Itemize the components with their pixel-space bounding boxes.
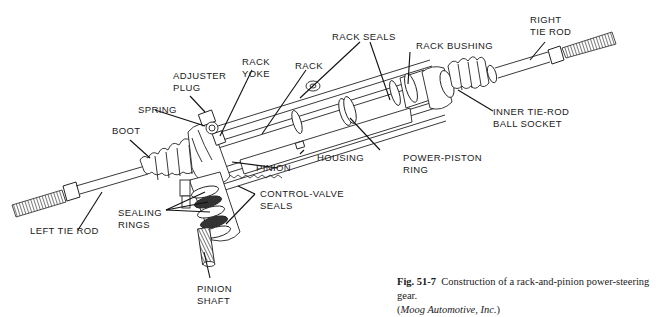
label-power-piston-ring: POWER-PISTON RING — [403, 152, 482, 175]
label-boot: BOOT — [112, 125, 141, 137]
label-inner-tie-rod-ball-socket: INNER TIE-ROD BALL SOCKET — [493, 106, 569, 129]
label-control-valve-seals: CONTROL-VALVE SEALS — [260, 188, 344, 211]
label-right-tie-rod: RIGHT TIE ROD — [530, 14, 571, 37]
right-tie-rod — [495, 32, 616, 78]
label-housing: HOUSING — [317, 152, 364, 164]
figure-number: Fig. 51-7 — [397, 276, 436, 287]
figure-caption: Fig. 51-7 Construction of a rack-and-pin… — [397, 275, 656, 317]
label-pinion-shaft: PINION SHAFT — [197, 283, 232, 306]
label-spring: SPRING — [138, 104, 177, 116]
figure-credit: Moog Automotive, Inc. — [401, 304, 497, 315]
label-rack-seals: RACK SEALS — [332, 31, 396, 43]
label-pinion: PINION — [256, 162, 291, 174]
label-sealing-rings: SEALING RINGS — [118, 207, 162, 230]
valve-body — [188, 110, 230, 184]
label-rack: RACK — [295, 60, 323, 72]
label-left-tie-rod: LEFT TIE ROD — [30, 225, 99, 237]
label-adjuster-plug: ADJUSTER PLUG — [173, 70, 226, 93]
credit-paren-close: ) — [497, 304, 501, 315]
label-rack-bushing: RACK BUSHING — [416, 40, 493, 52]
label-rack-yoke: RACK YOKE — [242, 56, 270, 79]
